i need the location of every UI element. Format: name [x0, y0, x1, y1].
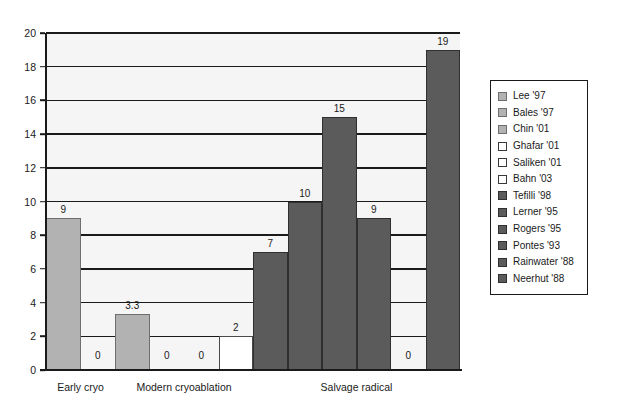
legend-item: Lee '97	[498, 88, 582, 105]
legend-item-label: Saliken '01	[513, 158, 562, 168]
x-axis-category-label: Modern cryoablation	[136, 382, 231, 393]
y-axis-tick-mark	[40, 32, 45, 34]
legend-item-label: Neerhut '88	[513, 274, 564, 284]
y-axis-tick-label: 2	[8, 331, 36, 342]
legend-item: Bales '97	[498, 105, 582, 122]
bar	[322, 117, 357, 370]
plot-area	[46, 33, 460, 370]
y-axis-tick-mark	[40, 234, 45, 236]
legend-item-label: Pontes '93	[513, 241, 560, 251]
y-axis-tick-mark	[40, 133, 45, 135]
y-axis-tick-label: 6	[8, 264, 36, 275]
x-axis-category-label: Salvage radical	[321, 382, 393, 393]
y-axis-tick-mark	[40, 167, 45, 169]
x-axis-line	[40, 369, 462, 371]
bar	[219, 336, 254, 370]
legend-item: Tefilli '98	[498, 188, 582, 205]
y-axis-tick-label: 12	[8, 163, 36, 174]
legend-swatch-icon	[498, 108, 507, 117]
legend-item: Lerner '95	[498, 204, 582, 221]
gridline	[46, 133, 460, 135]
y-axis-tick-label: 14	[8, 129, 36, 140]
bar	[426, 50, 461, 370]
bar-value-label: 0	[164, 351, 170, 361]
bar-value-label: 0	[198, 351, 204, 361]
bar	[46, 218, 81, 370]
legend-item: Ghafar '01	[498, 138, 582, 155]
legend-item: Neerhut '88	[498, 271, 582, 288]
legend-item-label: Tefilli '98	[513, 191, 551, 201]
legend-item-label: Chin '01	[513, 124, 549, 134]
bar-chart: 02468101214161820 903.3002710159019 Earl…	[0, 0, 634, 413]
legend-swatch-icon	[498, 241, 507, 250]
y-axis-tick-mark	[40, 201, 45, 203]
legend-item: Chin '01	[498, 121, 582, 138]
bar-value-label: 10	[299, 189, 310, 199]
legend-swatch-icon	[498, 175, 507, 184]
legend-swatch-icon	[498, 225, 507, 234]
legend-swatch-icon	[498, 125, 507, 134]
legend-items: Lee '97Bales '97Chin '01Ghafar '01Salike…	[498, 88, 582, 287]
y-axis-tick-label: 16	[8, 95, 36, 106]
legend-swatch-icon	[498, 258, 507, 267]
bar-value-label: 0	[405, 351, 411, 361]
y-axis-tick-mark	[40, 369, 45, 371]
bar-value-label: 2	[233, 323, 239, 333]
gridline	[46, 167, 460, 169]
legend-swatch-icon	[498, 142, 507, 151]
gridline	[46, 201, 460, 203]
legend-swatch-icon	[498, 274, 507, 283]
legend-item: Rainwater '88	[498, 254, 582, 271]
y-axis-tick-mark	[40, 302, 45, 304]
legend-item: Saliken '01	[498, 154, 582, 171]
y-axis-tick-mark	[40, 268, 45, 270]
x-axis-category-label: Early cryo	[57, 382, 104, 393]
legend-item-label: Lee '97	[513, 91, 546, 101]
bar	[288, 202, 323, 371]
y-axis-tick-mark	[40, 66, 45, 68]
legend-item-label: Rogers '95	[513, 224, 561, 234]
legend-swatch-icon	[498, 92, 507, 101]
legend-swatch-icon	[498, 191, 507, 200]
gridline	[46, 234, 460, 236]
y-axis-line	[45, 33, 47, 370]
y-axis-tick-mark	[40, 100, 45, 102]
legend-swatch-icon	[498, 158, 507, 167]
y-axis-tick-label: 8	[8, 230, 36, 241]
legend-item-label: Rainwater '88	[513, 257, 574, 267]
y-axis-tick-label: 18	[8, 61, 36, 72]
bar-value-label: 9	[371, 205, 377, 215]
bar-value-label: 0	[95, 351, 101, 361]
bar	[357, 218, 392, 370]
legend: Lee '97Bales '97Chin '01Ghafar '01Salike…	[490, 80, 588, 295]
y-axis-tick-label: 4	[8, 297, 36, 308]
legend-item-label: Ghafar '01	[513, 141, 559, 151]
y-axis-tick-label: 0	[8, 365, 36, 376]
gridline	[46, 100, 460, 102]
bar-value-label: 3.3	[125, 301, 139, 311]
bar-value-label: 7	[267, 239, 273, 249]
legend-swatch-icon	[498, 208, 507, 217]
y-axis-tick-label: 20	[8, 28, 36, 39]
bar-value-label: 19	[437, 37, 448, 47]
legend-item-label: Bales '97	[513, 108, 554, 118]
y-axis-tick-mark	[40, 336, 45, 338]
bar	[253, 252, 288, 370]
bar	[115, 314, 150, 370]
legend-item: Bahn '03	[498, 171, 582, 188]
gridline	[46, 66, 460, 68]
legend-item: Pontes '93	[498, 237, 582, 254]
legend-item: Rogers '95	[498, 221, 582, 238]
gridline	[46, 32, 460, 34]
legend-item-label: Lerner '95	[513, 207, 558, 217]
bar-value-label: 9	[60, 205, 66, 215]
legend-item-label: Bahn '03	[513, 174, 552, 184]
bar-value-label: 15	[334, 104, 345, 114]
y-axis-tick-label: 10	[8, 196, 36, 207]
